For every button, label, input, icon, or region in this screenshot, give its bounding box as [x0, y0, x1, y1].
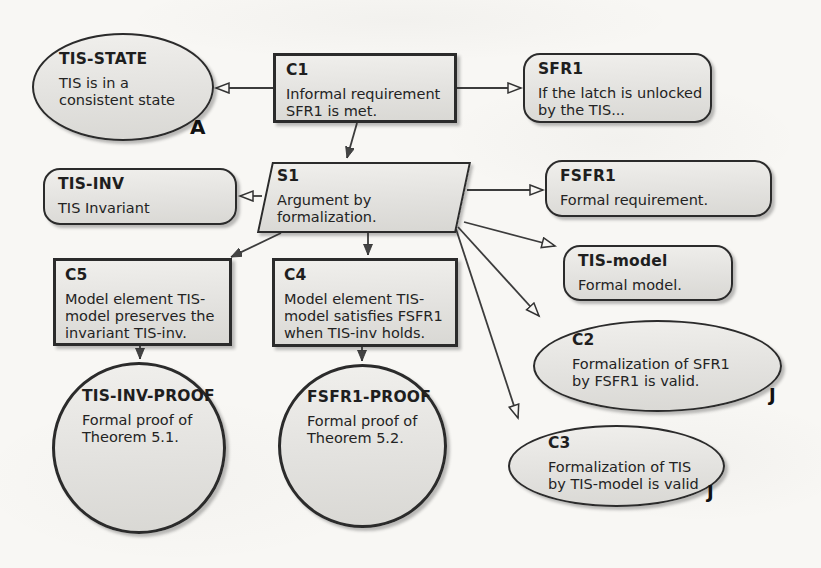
assumption-label-a: A — [190, 115, 205, 139]
justification-label-c3: J — [707, 481, 714, 502]
node-tis-inv: TIS-INV TIS Invariant — [43, 168, 237, 225]
node-sfr1: SFR1 If the latch is unlocked by the TIS… — [523, 53, 712, 123]
edge-s1-c5 — [231, 233, 281, 257]
node-fsfr1-id: FSFR1 — [560, 167, 766, 185]
node-c2: C2 Formalization of SFR1 by FSFR1 is val… — [533, 320, 782, 412]
node-tis-inv-body: TIS Invariant — [58, 200, 231, 217]
edge-s1-tis-model — [464, 222, 555, 246]
node-c1-id: C1 — [286, 61, 450, 79]
node-c1-body: Informal requirement SFR1 is met. — [286, 86, 450, 120]
node-tis-state-id: TIS-STATE — [59, 50, 202, 68]
node-c2-id: C2 — [572, 331, 770, 349]
node-c3: C3 Formalization of TIS by TIS-model is … — [508, 425, 725, 507]
edge-s1-c3 — [456, 229, 518, 418]
node-fsfr1-proof-body: Formal proof of Theorem 5.2. — [307, 413, 438, 447]
node-tis-state-body: TIS is in a consistent state — [59, 75, 202, 109]
justification-label-c2: J — [769, 384, 776, 405]
node-tis-inv-proof-id: TIS-INV-PROOF — [82, 387, 215, 405]
node-fsfr1: FSFR1 Formal requirement. — [545, 160, 772, 217]
node-c5-id: C5 — [65, 266, 227, 284]
node-c4-id: C4 — [284, 266, 453, 284]
node-tis-model-body: Formal model. — [578, 277, 727, 294]
node-c5: C5 Model element TIS- model preserves th… — [53, 258, 232, 346]
node-c2-body: Formalization of SFR1 by FSFR1 is valid. — [572, 356, 770, 390]
edge-s1-c2 — [458, 227, 539, 316]
node-fsfr1-proof: FSFR1-PROOF Formal proof of Theorem 5.2. — [278, 364, 447, 528]
node-c4: C4 Model element TIS- model satisfies FS… — [272, 258, 458, 347]
node-tis-inv-id: TIS-INV — [58, 175, 231, 193]
node-c3-id: C3 — [548, 434, 715, 452]
node-c5-body: Model element TIS- model preserves the i… — [65, 291, 227, 342]
node-tis-inv-proof-body: Formal proof of Theorem 5.1. — [82, 412, 215, 446]
node-tis-model: TIS-model Formal model. — [563, 245, 733, 301]
node-s1-body: Argument by formalization. — [277, 192, 377, 226]
node-s1: S1 Argument by formalization. — [257, 162, 471, 233]
node-c1: C1 Informal requirement SFR1 is met. — [273, 53, 457, 123]
node-sfr1-id: SFR1 — [538, 60, 706, 78]
node-tis-inv-proof: TIS-INV-PROOF Formal proof of Theorem 5.… — [52, 362, 226, 534]
node-tis-state: TIS-STATE TIS is in a consistent state — [32, 33, 214, 141]
edge-c1-s1 — [347, 123, 357, 158]
node-c3-body: Formalization of TIS by TIS-model is val… — [548, 459, 715, 493]
node-s1-id: S1 — [277, 167, 377, 185]
node-fsfr1-proof-id: FSFR1-PROOF — [307, 388, 438, 406]
node-fsfr1-body: Formal requirement. — [560, 192, 766, 209]
node-tis-model-id: TIS-model — [578, 252, 727, 270]
node-sfr1-body: If the latch is unlocked by the TIS... — [538, 85, 706, 119]
node-c4-body: Model element TIS- model satisfies FSFR1… — [284, 291, 453, 342]
gsn-diagram: TIS-STATE TIS is in a consistent state A… — [0, 0, 821, 568]
